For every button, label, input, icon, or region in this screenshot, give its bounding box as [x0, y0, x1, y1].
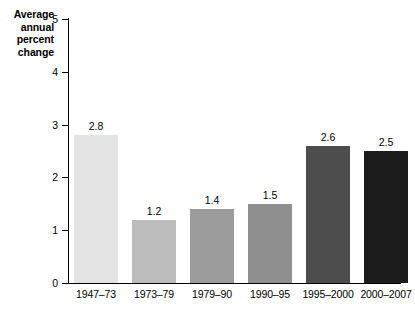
- y-axis-tick-label: 2: [40, 172, 58, 183]
- y-axis-tick-mark: [62, 19, 69, 20]
- y-axis-tick-mark: [62, 125, 69, 126]
- y-axis-tick-mark: [62, 72, 69, 73]
- y-axis-tick-label: 3: [40, 120, 58, 131]
- y-axis-tick-mark: [62, 230, 69, 231]
- bar: [190, 209, 234, 283]
- y-axis-line: [68, 18, 69, 284]
- y-axis-tick-mark: [62, 283, 69, 284]
- bar-value-label: 1.2: [132, 206, 176, 217]
- x-axis-line: [68, 283, 401, 284]
- x-axis-category-label: 1973–79: [125, 289, 183, 300]
- y-axis-title-line-4: change: [0, 46, 54, 59]
- bar-value-label: 1.4: [190, 195, 234, 206]
- y-axis-tick-label: 1: [40, 225, 58, 236]
- x-axis-category-label: 1979–90: [183, 289, 241, 300]
- bar: [74, 135, 118, 283]
- y-axis-title-line-3: percent: [0, 33, 54, 46]
- y-axis-tick-label: 0: [40, 278, 58, 289]
- x-axis-category-label: 1947–73: [67, 289, 125, 300]
- bar: [364, 151, 408, 283]
- x-axis-category-label: 1990–95: [241, 289, 299, 300]
- x-axis-category-label: 2000–2007: [357, 289, 415, 300]
- bar-value-label: 2.8: [74, 121, 118, 132]
- bar-value-label: 1.5: [248, 190, 292, 201]
- bar: [306, 146, 350, 283]
- bar-value-label: 2.5: [364, 137, 408, 148]
- y-axis-tick-label: 4: [40, 67, 58, 78]
- y-axis-tick-mark: [62, 177, 69, 178]
- bar-value-label: 2.6: [306, 132, 350, 143]
- bar: [248, 204, 292, 283]
- bar: [132, 220, 176, 283]
- x-axis-category-label: 1995–2000: [299, 289, 357, 300]
- y-axis-tick-label: 5: [40, 14, 58, 25]
